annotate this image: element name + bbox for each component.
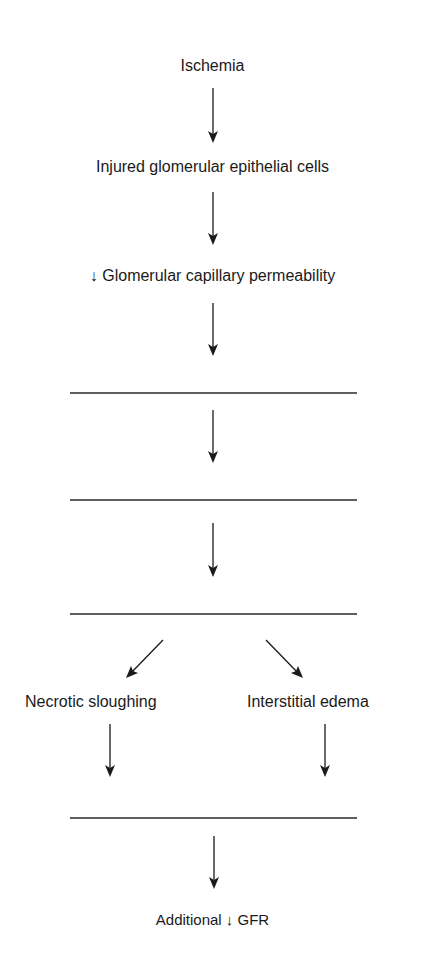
flowchart-graphics bbox=[0, 0, 425, 980]
node-additional-gfr: Additional ↓ GFR bbox=[0, 910, 425, 930]
node-permeability: ↓ Glomerular capillary permeability bbox=[0, 266, 425, 286]
arrow-down-icon bbox=[105, 724, 115, 777]
arrow-down-icon bbox=[208, 88, 218, 143]
arrow-down-icon bbox=[208, 523, 218, 577]
node-ischemia: Ischemia bbox=[0, 56, 425, 76]
node-injured-cells: Injured glomerular epithelial cells bbox=[0, 157, 425, 177]
node-interstitial-edema: Interstitial edema bbox=[247, 692, 369, 712]
arrow-down-icon bbox=[320, 724, 330, 777]
arrow-down-icon bbox=[208, 410, 218, 463]
arrow-down-right-icon bbox=[266, 640, 303, 678]
arrow-down-icon bbox=[209, 836, 219, 889]
arrow-down-icon bbox=[208, 303, 218, 356]
node-necrotic-sloughing: Necrotic sloughing bbox=[25, 692, 157, 712]
arrow-down-left-icon bbox=[126, 640, 163, 678]
arrow-down-icon bbox=[208, 192, 218, 245]
